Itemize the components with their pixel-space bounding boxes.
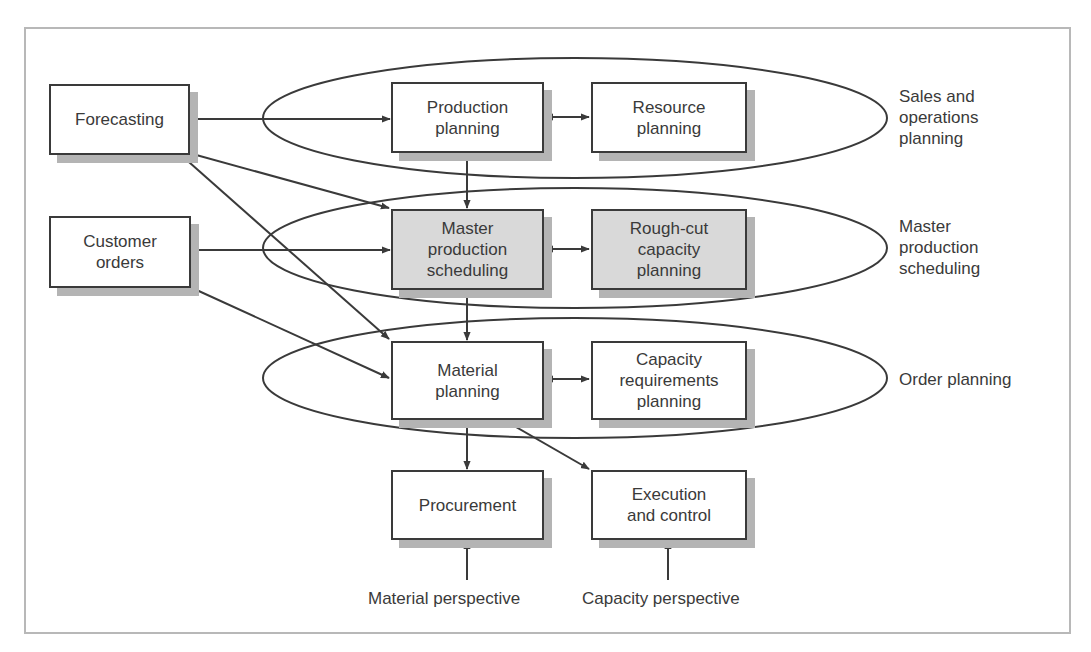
box-resource-planning: Resource planning [591, 82, 747, 153]
label-master-production-scheduling: Master production scheduling [899, 216, 980, 279]
box-execution-control: Execution and control [591, 470, 747, 540]
label-capacity-perspective: Capacity perspective [582, 588, 740, 609]
box-forecasting: Forecasting [49, 84, 190, 155]
box-rough-cut-capacity-planning: Rough-cut capacity planning [591, 209, 747, 290]
box-procurement: Procurement [391, 470, 544, 540]
box-capacity-requirements-planning: Capacity requirements planning [591, 341, 747, 420]
box-master-production-scheduling: Master production scheduling [391, 209, 544, 290]
edge-material-execution [502, 419, 589, 469]
label-material-perspective: Material perspective [368, 588, 520, 609]
edge-orders-material [190, 287, 389, 378]
box-customer-orders: Customer orders [49, 216, 191, 288]
label-order-planning: Order planning [899, 369, 1011, 390]
box-material-planning: Material planning [391, 341, 544, 420]
box-production-planning: Production planning [391, 82, 544, 153]
edge-forecasting-material [181, 155, 389, 339]
label-sales-operations-planning: Sales and operations planning [899, 86, 978, 149]
